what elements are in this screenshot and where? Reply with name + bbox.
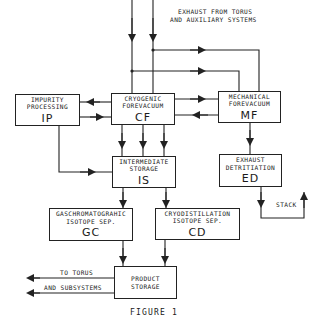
to-torus-label: TO TORUS <box>60 269 93 277</box>
node-line1: INTERMEDIATE <box>119 158 169 166</box>
node-abbr: MF <box>241 109 259 122</box>
node-intermediate-storage: INTERMEDIATE STORAGE IS <box>112 156 176 188</box>
figure-caption: FIGURE 1 <box>130 309 178 317</box>
node-line1: EXHAUST <box>236 156 265 164</box>
node-gaschromatographic-isotope-sep: GASCHROMATOGRAHIC ISOTOPE SEP. GC <box>49 208 133 241</box>
node-cryodistillation-isotope-sep: CRYODISTILLATION ISOTOPE SEP. CD <box>155 208 240 240</box>
node-exhaust-detritiation: EXHAUST DETRITIATION ED <box>219 154 282 187</box>
node-abbr: CF <box>135 111 151 124</box>
node-impurity-processing: IMPURITY PROCESSING IP <box>15 94 80 126</box>
node-abbr: GC <box>82 226 100 239</box>
node-line2: STORAGE <box>130 165 159 173</box>
junction-dot <box>151 48 154 51</box>
node-line2: ISOTOPE SEP. <box>66 218 116 226</box>
junction-dot <box>130 69 133 72</box>
torus-exhaust-line1: EXHAUST FROM TORUS <box>170 8 257 16</box>
torus-exhaust-line2: AND AUXILIARY SYSTEMS <box>170 16 257 24</box>
to-subsystems-label: AND SUBSYSTEMS <box>44 284 102 292</box>
node-abbr: ED <box>242 172 259 185</box>
node-line2: DETRITIATION <box>226 164 276 172</box>
node-abbr: IP <box>42 112 54 125</box>
node-line1: CRYODISTILLATION <box>164 210 230 218</box>
node-line1: MECHANICAL <box>229 93 270 101</box>
node-line1: PRODUCT <box>131 275 160 283</box>
node-product-storage: PRODUCT STORAGE <box>114 266 177 299</box>
node-line1: CRYOGENIC <box>124 95 161 103</box>
node-line1: GASCHROMATOGRAHIC <box>56 210 126 218</box>
node-line2: STORAGE <box>131 283 160 291</box>
node-line1: IMPURITY <box>31 96 64 104</box>
node-abbr: IS <box>138 174 150 187</box>
node-mechanical-forevacuum: MECHANICAL FOREVACUUM MF <box>218 91 281 123</box>
node-line2: FOREVACUUM <box>229 100 270 108</box>
node-abbr: CD <box>188 226 206 239</box>
stack-label: STACK <box>276 201 297 209</box>
node-cryogenic-forevacuum: CRYOGENIC FOREVACUUM CF <box>111 93 175 125</box>
node-line2: ISOTOPE SEP. <box>173 217 223 225</box>
torus-exhaust-label: EXHAUST FROM TORUS AND AUXILIARY SYSTEMS <box>170 8 257 24</box>
node-line2: FOREVACUUM <box>122 102 163 110</box>
node-line2: PROCESSING <box>27 103 68 111</box>
